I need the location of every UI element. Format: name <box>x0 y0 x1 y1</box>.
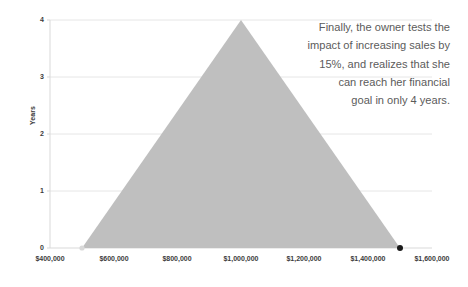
annotation-line-1: Finally, the owner tests the <box>268 18 450 36</box>
right-base-marker-icon <box>397 245 403 251</box>
y-tick-label-0: 0 <box>28 244 44 252</box>
x-tick-label-1600000: $1,600,000 <box>397 254 467 263</box>
left-base-marker-icon <box>79 245 84 250</box>
chart-annotation: Finally, the owner tests the impact of i… <box>268 18 450 109</box>
x-tick-label-400000: $400,000 <box>15 254 85 263</box>
y-tick-label-3: 3 <box>28 73 44 81</box>
annotation-line-2: impact of increasing sales by <box>268 36 450 54</box>
y-tick-label-1: 1 <box>28 187 44 195</box>
annotation-line-5: goal in only 4 years. <box>268 91 450 109</box>
y-tick-label-2: 2 <box>28 130 44 138</box>
annotation-line-3: 15%, and realizes that she <box>268 55 450 73</box>
chart-container: Years 4 3 2 1 0 $400,000 $600,000 $800,0… <box>0 0 468 287</box>
annotation-line-4: can reach her financial <box>268 73 450 91</box>
x-tick-label-600000: $600,000 <box>79 254 149 263</box>
y-tick-label-4: 4 <box>28 16 44 24</box>
x-tick-label-1000000: $1,000,000 <box>206 254 276 263</box>
x-tick-label-1400000: $1,400,000 <box>333 254 403 263</box>
x-tick-label-800000: $800,000 <box>142 254 212 263</box>
x-tick-label-1200000: $1,200,000 <box>269 254 339 263</box>
